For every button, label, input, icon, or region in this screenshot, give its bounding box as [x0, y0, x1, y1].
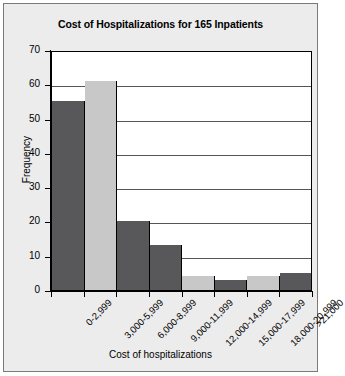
chart-figure: Cost of Hospitalizations for 165 Inpatie… — [3, 3, 318, 372]
bar-series — [52, 52, 311, 290]
y-axis-tick-label: 0 — [10, 284, 40, 295]
y-axis-tick-label: 70 — [10, 44, 40, 55]
bar — [215, 280, 248, 290]
bar — [150, 245, 183, 290]
x-axis-labels: 0-2,9993,000-5,9996,000-8,9999,000-11,99… — [51, 291, 312, 351]
x-axis-tick-label: 0-2,999 — [84, 297, 115, 328]
x-axis-tick — [312, 292, 313, 297]
bar — [85, 81, 118, 290]
bar — [280, 273, 312, 290]
chart-title: Cost of Hospitalizations for 165 Inpatie… — [4, 18, 317, 30]
y-axis-tick-label: 30 — [10, 181, 40, 192]
bar — [247, 276, 280, 290]
bar — [182, 276, 215, 290]
y-axis-tick-label: 10 — [10, 250, 40, 261]
bar — [117, 221, 150, 290]
y-axis-tick-label: 40 — [10, 147, 40, 158]
y-axis-tick-label: 60 — [10, 78, 40, 89]
y-axis-tick-label: 20 — [10, 215, 40, 226]
x-axis-title: Cost of hospitalizations — [4, 349, 317, 360]
y-axis-tick-label: 50 — [10, 113, 40, 124]
plot-area — [51, 51, 312, 291]
bar — [52, 101, 85, 290]
y-axis-title: Frequency — [21, 110, 32, 210]
